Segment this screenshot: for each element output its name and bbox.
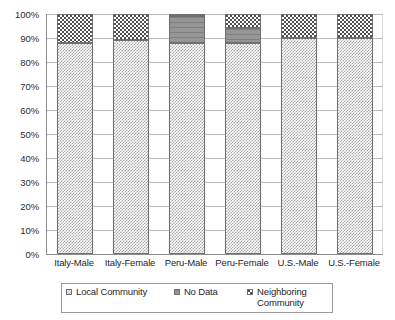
bar-segment[interactable] xyxy=(113,40,149,254)
legend-label: Neighboring Community xyxy=(257,287,328,308)
bar-stack xyxy=(225,14,261,254)
bar-segment[interactable] xyxy=(169,16,205,42)
bar-segment[interactable] xyxy=(337,14,373,38)
y-tick-label: 20% xyxy=(20,201,39,212)
legend-swatch-icon xyxy=(174,289,180,295)
bar-segment[interactable] xyxy=(169,43,205,254)
bar-group[interactable] xyxy=(281,14,317,254)
bar-segment[interactable] xyxy=(225,28,261,42)
bar-segment[interactable] xyxy=(225,43,261,254)
plot-wrapper: 100%90%80%70%60%50%40%30%20%10%0% Italy-… xyxy=(0,0,395,268)
bar-segment[interactable] xyxy=(57,14,93,43)
legend-item[interactable]: Neighboring Community xyxy=(247,287,328,308)
bar-segment[interactable] xyxy=(337,38,373,254)
bar-segment[interactable] xyxy=(113,14,149,40)
y-tick-label: 90% xyxy=(20,33,39,44)
bars-layer xyxy=(47,14,383,254)
legend-swatch-icon xyxy=(247,289,253,295)
bar-segment[interactable] xyxy=(281,38,317,254)
chart-legend: Local CommunityNo DataNeighboring Commun… xyxy=(61,283,333,313)
bar-stack xyxy=(169,14,205,254)
y-tick-label: 80% xyxy=(20,57,39,68)
bar-segment[interactable] xyxy=(281,14,317,38)
bar-segment[interactable] xyxy=(169,14,205,16)
x-tick-label: U.S.-Female xyxy=(320,257,388,268)
bar-segment[interactable] xyxy=(225,14,261,28)
y-tick-label: 40% xyxy=(20,153,39,164)
bar-group[interactable] xyxy=(337,14,373,254)
y-axis: 100%90%80%70%60%50%40%30%20%10%0% xyxy=(0,0,44,268)
y-tick-label: 50% xyxy=(20,129,39,140)
bar-stack xyxy=(281,14,317,254)
legend-item[interactable]: No Data xyxy=(174,287,247,298)
bar-group[interactable] xyxy=(57,14,93,254)
legend-label: Local Community xyxy=(76,287,147,298)
bar-group[interactable] xyxy=(113,14,149,254)
legend-label: No Data xyxy=(184,287,218,298)
bar-stack xyxy=(57,14,93,254)
y-tick-label: 70% xyxy=(20,81,39,92)
bar-group[interactable] xyxy=(169,14,205,254)
y-tick-label: 100% xyxy=(15,9,39,20)
legend-item[interactable]: Local Community xyxy=(66,287,174,298)
bar-segment[interactable] xyxy=(57,43,93,254)
stacked-bar-chart: 100%90%80%70%60%50%40%30%20%10%0% Italy-… xyxy=(0,0,395,320)
y-tick-label: 10% xyxy=(20,225,39,236)
y-tick-label: 30% xyxy=(20,177,39,188)
bar-stack xyxy=(337,14,373,254)
legend-swatch-icon xyxy=(66,289,72,295)
bar-stack xyxy=(113,14,149,254)
plot-area xyxy=(46,14,383,255)
y-tick-label: 0% xyxy=(25,249,39,260)
x-axis: Italy-MaleItaly-FemalePeru-MalePeru-Fema… xyxy=(46,257,382,275)
y-tick-label: 60% xyxy=(20,105,39,116)
bar-group[interactable] xyxy=(225,14,261,254)
